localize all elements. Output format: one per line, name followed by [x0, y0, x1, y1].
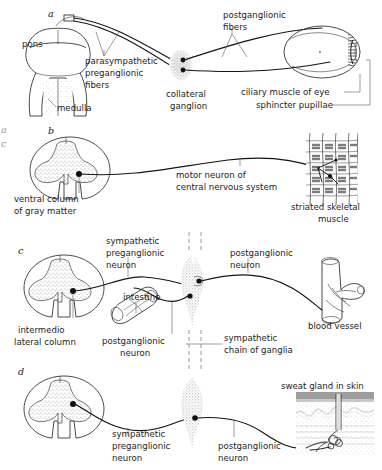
label-sympathetic-chain-line1: sympathetic: [224, 333, 278, 343]
postganglionic-axon-blood-vessel: [201, 275, 322, 310]
panel-a-letter: a: [48, 8, 54, 19]
label-parasympathetic-preganglionic-fibers-line3: fibers: [85, 80, 110, 90]
anatomical-diagram: a c a: [0, 0, 382, 470]
label-postganglionic-intestine-line1: postganglionic: [102, 336, 165, 346]
label-striated-skeletal-muscle-line2: muscle: [318, 214, 349, 224]
panel-c: c intermedio lateral column sympathetic …: [14, 232, 365, 372]
label-sympathetic-pregang-c-line3: neuron: [106, 260, 136, 270]
label-ventral-column-line1: ventral column: [14, 194, 79, 204]
panel-c-letter: c: [18, 245, 24, 256]
panel-b-letter: b: [48, 125, 54, 136]
panel-d: d sympathetic preganglionic neuron: [18, 366, 374, 463]
sweat-gland-in-skin-diagram: [296, 392, 374, 454]
label-sympathetic-pregang-d-line2: preganglionic: [112, 441, 171, 451]
label-intermediolateral-line1: intermedio: [18, 325, 65, 335]
label-sphincter-pupillae: sphincter pupillae: [256, 100, 333, 110]
label-sympathetic-chain-line2: chain of ganglia: [224, 345, 293, 355]
brainstem-diagram: [26, 15, 90, 116]
label-postganglionic-d-line1: postganglionic: [218, 441, 281, 451]
label-motor-neuron-line2: central nervous system: [176, 182, 277, 192]
postganglionic-fiber-upper: [184, 28, 322, 60]
blood-vessel-diagram: [322, 258, 365, 324]
sympathetic-preganglionic-axon-c: [75, 277, 186, 291]
spinal-cord-section-c: [24, 255, 104, 318]
label-ventral-column-line2: of gray matter: [14, 206, 77, 216]
label-postganglionic-d-line2: neuron: [218, 453, 248, 463]
label-postganglionic-c-line2: neuron: [230, 260, 260, 270]
collateral-ganglion-structure: [169, 49, 193, 81]
label-striated-skeletal-muscle-line1: striated skeletal: [291, 202, 360, 212]
label-postganglionic-c-line1: postganglionic: [230, 248, 293, 258]
label-medulla: medulla: [57, 103, 92, 113]
figure-canvas: a c a: [0, 0, 382, 470]
eye-bracket-lower: [332, 60, 370, 105]
label-sweat-gland-in-skin: sweat gland in skin: [281, 381, 364, 391]
striated-skeletal-muscle-diagram: [306, 133, 360, 205]
label-intestine: intestine: [123, 292, 160, 302]
label-sympathetic-pregang-c-line2: preganglionic: [106, 248, 165, 258]
sympathetic-chain-ganglion-d: [181, 378, 203, 452]
label-postganglionic-fibers-line2: fibers: [223, 22, 248, 32]
preganglionic-leader: [96, 32, 119, 56]
spinal-cord-section-b: [30, 137, 110, 199]
edge-artifact-letters: a c: [1, 124, 7, 149]
label-sympathetic-pregang-d-line3: neuron: [112, 453, 142, 463]
label-postganglionic-intestine-line2: neuron: [120, 348, 150, 358]
panel-d-letter: d: [18, 366, 24, 377]
label-ciliary-muscle-of-eye: ciliary muscle of eye: [241, 87, 330, 97]
label-sympathetic-pregang-d-line1: sympathetic: [112, 429, 166, 439]
label-sympathetic-pregang-c-line1: sympathetic: [106, 236, 160, 246]
edge-letter-c: c: [1, 138, 7, 149]
edge-letter-a: a: [1, 124, 7, 135]
label-collateral-ganglion-line1: collateral: [166, 89, 206, 99]
postganglionic-leader-v: [222, 34, 247, 57]
label-intermediolateral-line2: lateral column: [14, 337, 76, 347]
label-collateral-ganglion-line2: ganglion: [170, 101, 207, 111]
label-motor-neuron-line1: motor neuron of: [176, 170, 247, 180]
postganglionic-fiber-lower: [184, 62, 330, 72]
panel-a: a pons medulla: [22, 8, 370, 116]
panel-b: b ventral column of gray matter motor ne…: [14, 125, 360, 224]
label-parasympathetic-preganglionic-fibers-line2: preganglionic: [85, 68, 144, 78]
label-parasympathetic-preganglionic-fibers-line1: parasympathetic: [85, 56, 158, 66]
sympathetic-preganglionic-axon-d: [75, 404, 192, 431]
sympathetic-chain-ganglion-c: [181, 232, 203, 372]
label-postganglionic-fibers-line1: postganglionic: [223, 10, 286, 20]
label-blood-vessel: blood vessel: [308, 321, 362, 331]
spinal-cord-section-d: [24, 376, 104, 438]
label-pons: pons: [22, 39, 43, 49]
eye-bracket-upper: [344, 74, 360, 92]
